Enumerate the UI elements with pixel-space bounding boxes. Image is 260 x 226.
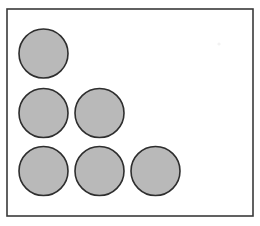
circle-r3-c3 [131, 147, 180, 196]
circle-r3-c1 [19, 147, 68, 196]
speck-top-right [217, 42, 220, 45]
circle-r2-c2 [75, 89, 124, 138]
figure-container: Array of shaded circles in a staircase a… [0, 0, 260, 226]
circle-r3-c2 [75, 147, 124, 196]
scan-artifact-group [217, 42, 220, 45]
circle-r1-c1 [19, 29, 68, 78]
circle-array-figure: Array of shaded circles in a staircase a… [0, 0, 260, 226]
circle-r2-c1 [19, 89, 68, 138]
